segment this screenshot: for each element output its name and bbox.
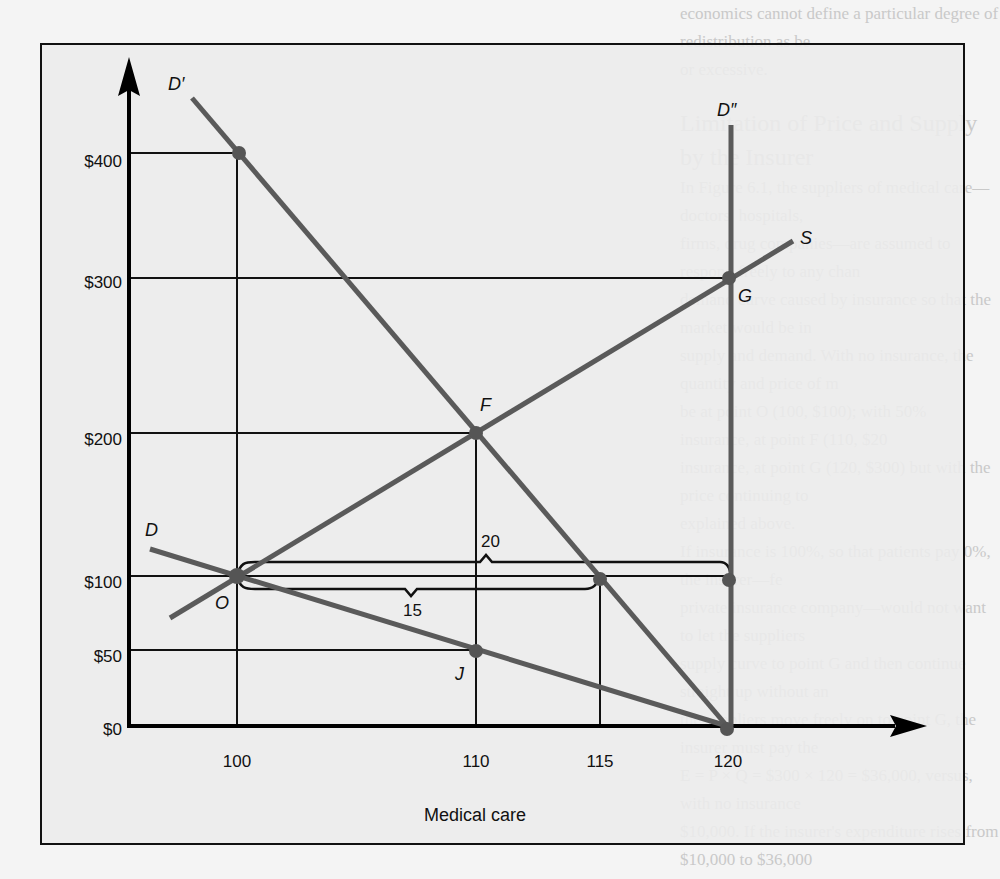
brace-label-20: 20	[481, 532, 500, 552]
x-axis-title: Medical care	[424, 805, 526, 826]
x-axis-arrow-icon	[890, 715, 927, 737]
x-tick-120: 120	[698, 752, 758, 772]
point-400	[232, 146, 246, 160]
label-d-double-prime: D″	[717, 100, 736, 121]
curves	[150, 98, 793, 726]
point-o	[229, 568, 245, 584]
y-tick-50: $50	[52, 647, 122, 667]
point-120-100	[722, 573, 736, 587]
label-point-g: G	[738, 286, 752, 307]
y-tick-200: $200	[52, 430, 122, 450]
brace-20	[237, 555, 731, 576]
x-tick-110: 110	[446, 752, 506, 772]
supply-demand-chart	[0, 0, 1000, 879]
brace-label-15: 15	[403, 601, 422, 621]
x-tick-115: 115	[570, 752, 630, 772]
y-tick-400: $400	[52, 152, 122, 172]
label-s: S	[800, 228, 812, 249]
guide-lines	[129, 153, 731, 726]
point-f	[469, 426, 483, 440]
label-point-j: J	[455, 664, 464, 685]
label-point-o: O	[215, 593, 229, 614]
point-g	[722, 271, 736, 285]
x-tick-100: 100	[207, 752, 267, 772]
label-d-prime: D′	[168, 74, 184, 95]
point-120-0	[720, 722, 734, 736]
point-115-100	[593, 572, 607, 586]
label-d: D	[145, 520, 158, 541]
y-tick-100: $100	[52, 573, 122, 593]
y-tick-0: $0	[52, 720, 122, 740]
curve-d-prime	[192, 98, 727, 726]
label-point-f: F	[480, 395, 491, 416]
y-tick-300: $300	[52, 273, 122, 293]
point-j	[469, 644, 483, 658]
